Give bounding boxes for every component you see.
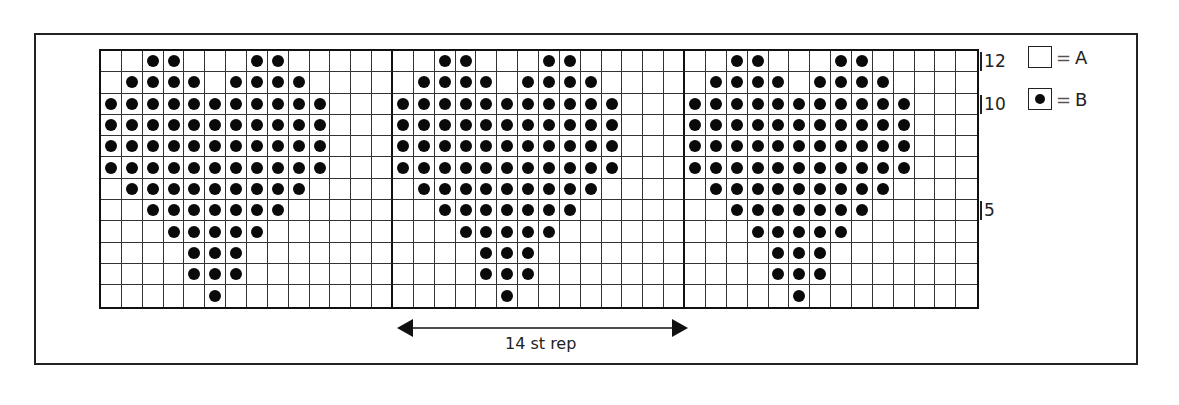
chart-cell — [581, 179, 602, 200]
chart-cell — [789, 243, 810, 264]
chart-cell — [497, 179, 518, 200]
dot-icon — [522, 204, 534, 216]
chart-cell — [831, 115, 852, 136]
dot-icon — [543, 98, 555, 110]
colorwork-chart-grid — [99, 49, 979, 309]
chart-cell — [122, 264, 143, 285]
chart-cell — [810, 243, 831, 264]
dot-icon — [564, 162, 576, 174]
chart-cell — [539, 94, 560, 115]
chart-cell — [247, 285, 268, 306]
chart-cell — [497, 51, 518, 72]
dot-icon — [522, 183, 534, 195]
chart-cell — [935, 115, 956, 136]
chart-cell — [852, 157, 873, 178]
chart-cell — [435, 221, 456, 242]
chart-cell — [435, 115, 456, 136]
chart-cell — [226, 200, 247, 221]
dot-icon — [418, 119, 430, 131]
chart-cell — [351, 200, 372, 221]
dot-icon — [814, 204, 826, 216]
chart-cell — [685, 221, 706, 242]
chart-cell — [205, 285, 226, 306]
chart-cell — [706, 264, 727, 285]
chart-cell — [518, 115, 539, 136]
chart-cell — [810, 115, 831, 136]
chart-cell — [184, 179, 205, 200]
dot-icon — [856, 183, 868, 195]
chart-cell — [184, 200, 205, 221]
chart-cell — [101, 51, 122, 72]
chart-cell — [476, 157, 497, 178]
chart-cell — [497, 264, 518, 285]
dot-icon — [835, 76, 847, 88]
dot-icon — [710, 119, 722, 131]
dot-icon — [272, 183, 284, 195]
chart-cell — [873, 179, 894, 200]
chart-cell — [289, 285, 310, 306]
chart-cell — [894, 94, 915, 115]
dot-icon — [460, 76, 472, 88]
chart-cell — [226, 179, 247, 200]
chart-cell — [581, 136, 602, 157]
chart-cell — [122, 179, 143, 200]
chart-cell — [602, 136, 623, 157]
dot-icon — [898, 162, 910, 174]
chart-cell — [873, 243, 894, 264]
chart-cell — [122, 157, 143, 178]
chart-cell — [226, 264, 247, 285]
chart-cell — [622, 264, 643, 285]
chart-cell — [789, 285, 810, 306]
dot-icon — [168, 98, 180, 110]
chart-cell — [497, 136, 518, 157]
dot-icon — [877, 183, 889, 195]
dot-icon — [209, 183, 221, 195]
dot-icon — [126, 98, 138, 110]
chart-cell — [518, 221, 539, 242]
chart-cell — [143, 200, 164, 221]
chart-cell — [873, 157, 894, 178]
chart-cell — [414, 157, 435, 178]
dot-icon — [188, 268, 200, 280]
chart-cell — [205, 264, 226, 285]
dot-icon — [585, 140, 597, 152]
chart-cell — [205, 157, 226, 178]
chart-cell — [122, 115, 143, 136]
chart-cell — [247, 264, 268, 285]
dot-icon — [793, 140, 805, 152]
chart-cell — [184, 243, 205, 264]
dot-icon — [543, 140, 555, 152]
dot-icon — [188, 162, 200, 174]
chart-cell — [706, 243, 727, 264]
chart-cell — [456, 157, 477, 178]
chart-cell — [810, 179, 831, 200]
chart-cell — [122, 51, 143, 72]
chart-cell — [664, 179, 685, 200]
chart-cell — [247, 200, 268, 221]
dot-icon — [293, 76, 305, 88]
dot-icon — [168, 76, 180, 88]
chart-cell — [330, 51, 351, 72]
dot-icon — [209, 268, 221, 280]
dot-icon — [585, 183, 597, 195]
chart-cell — [664, 157, 685, 178]
chart-cell — [956, 264, 977, 285]
legend-equals: = — [1056, 89, 1071, 110]
chart-cell — [935, 72, 956, 93]
dot-icon — [230, 247, 242, 259]
chart-cell — [727, 157, 748, 178]
chart-cell — [956, 243, 977, 264]
chart-cell — [810, 285, 831, 306]
chart-cell — [748, 94, 769, 115]
legend-item-a: = A — [1028, 46, 1087, 68]
dot-icon — [793, 162, 805, 174]
chart-cell — [351, 264, 372, 285]
chart-cell — [268, 179, 289, 200]
chart-cell — [247, 157, 268, 178]
dot-icon — [543, 162, 555, 174]
chart-cell — [831, 243, 852, 264]
chart-cell — [769, 94, 790, 115]
chart-cell — [810, 94, 831, 115]
chart-cell — [810, 264, 831, 285]
chart-cell — [956, 221, 977, 242]
